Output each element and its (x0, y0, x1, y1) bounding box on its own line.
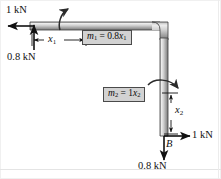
point-b-label: B (166, 139, 172, 150)
moment-bottom-symbol: m (108, 88, 115, 98)
moment-top-var-sub: 1 (123, 34, 126, 41)
horizontal-beam (30, 22, 160, 30)
moment-bottom-var-sub: 2 (137, 91, 140, 98)
moment-top-equals: = 0.8 (97, 31, 119, 41)
force-top-up-label: 0.8 kN (7, 52, 36, 63)
dimension-x1-label: x1 (48, 34, 56, 46)
force-b-right-label: 1 kN (192, 130, 213, 141)
force-b-down-label: 0.8 kN (138, 161, 167, 172)
moment-top-symbol: m (87, 31, 94, 41)
dimension-x2-sub: 2 (180, 109, 184, 117)
moment-bottom-equation-box: m2 = 1x2 (103, 87, 145, 102)
force-top-left-label: 1 kN (6, 5, 27, 16)
moment-top-equation-box: m1 = 0.8x1 (82, 30, 132, 45)
dimension-x1 (32, 30, 86, 46)
moment-bottom-equals: = 1 (118, 88, 133, 98)
free-body-diagram: 1 kN 0.8 kN x1 x2 m1 = 0.8x1 m2 = 1x2 B … (0, 0, 221, 179)
dimension-x1-sub: 1 (53, 38, 57, 46)
vertical-column (160, 38, 168, 136)
dimension-x2-label: x2 (175, 105, 183, 117)
